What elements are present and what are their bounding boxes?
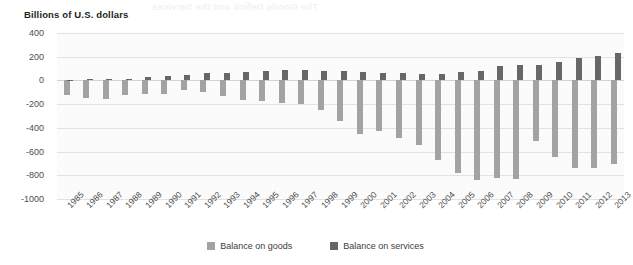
y-tick-label: -200 bbox=[0, 99, 44, 109]
bar-services-2002 bbox=[400, 73, 406, 80]
bar-goods-1996 bbox=[279, 80, 285, 103]
bar-goods-1993 bbox=[220, 80, 226, 96]
bar-goods-2001 bbox=[376, 80, 382, 131]
bar-services-1989 bbox=[145, 77, 151, 81]
bar-goods-2012 bbox=[591, 80, 597, 168]
bar-services-1987 bbox=[106, 79, 112, 80]
bar-goods-2002 bbox=[396, 80, 402, 137]
bar-services-1990 bbox=[165, 76, 171, 81]
plot-area: 4002000-200-400-600-800-1000 19851986198… bbox=[57, 33, 624, 199]
bar-services-1998 bbox=[321, 71, 327, 81]
bar-goods-1985 bbox=[64, 80, 70, 94]
chart-legend: Balance on goodsBalance on services bbox=[0, 241, 631, 251]
gridline-400 bbox=[57, 33, 624, 34]
bar-services-2013 bbox=[615, 53, 621, 80]
bar-goods-1995 bbox=[259, 80, 265, 101]
y-tick-label: 200 bbox=[0, 52, 44, 62]
bar-services-1996 bbox=[282, 70, 288, 80]
bar-services-2001 bbox=[380, 73, 386, 80]
gridline--800 bbox=[57, 175, 624, 176]
bar-services-2009 bbox=[536, 65, 542, 80]
gridline-200 bbox=[57, 57, 624, 58]
bar-services-1995 bbox=[263, 71, 269, 80]
bar-services-1999 bbox=[341, 71, 347, 81]
bar-goods-1991 bbox=[181, 80, 187, 89]
chart-axis-title: Billions of U.S. dollars bbox=[24, 9, 128, 20]
bar-goods-2007 bbox=[494, 80, 500, 177]
bar-services-2011 bbox=[576, 58, 582, 80]
legend-item-services: Balance on services bbox=[330, 241, 424, 251]
bar-services-2004 bbox=[439, 74, 445, 81]
bar-goods-2005 bbox=[455, 80, 461, 173]
legend-swatch-services bbox=[330, 242, 338, 250]
gridline--400 bbox=[57, 128, 624, 129]
bar-services-1993 bbox=[224, 73, 230, 80]
y-tick-label: -600 bbox=[0, 147, 44, 157]
bar-goods-1999 bbox=[337, 80, 343, 121]
legend-label-goods: Balance on goods bbox=[220, 241, 292, 251]
bar-goods-1989 bbox=[142, 80, 148, 94]
bar-goods-1990 bbox=[161, 80, 167, 93]
bar-services-2010 bbox=[556, 62, 562, 80]
y-tick-label: -1000 bbox=[0, 194, 44, 204]
bar-goods-1986 bbox=[83, 80, 89, 97]
bar-services-2005 bbox=[458, 72, 464, 80]
bar-services-1988 bbox=[126, 79, 132, 81]
bar-services-1994 bbox=[243, 72, 249, 80]
bar-services-1992 bbox=[204, 73, 210, 80]
y-tick-label: 0 bbox=[0, 75, 44, 85]
bar-services-2006 bbox=[478, 71, 484, 81]
bar-services-1985 bbox=[67, 80, 73, 81]
bar-goods-2000 bbox=[357, 80, 363, 134]
bar-goods-2013 bbox=[611, 80, 617, 163]
bar-services-1991 bbox=[184, 75, 190, 81]
legend-label-services: Balance on services bbox=[343, 241, 424, 251]
bar-services-2000 bbox=[360, 72, 366, 80]
bar-goods-1994 bbox=[240, 80, 246, 100]
bar-goods-1987 bbox=[103, 80, 109, 99]
y-tick-label: -800 bbox=[0, 170, 44, 180]
bar-services-2008 bbox=[517, 65, 523, 81]
bar-goods-2004 bbox=[435, 80, 441, 159]
bar-goods-1988 bbox=[122, 80, 128, 95]
bar-goods-2011 bbox=[572, 80, 578, 168]
bar-goods-1992 bbox=[200, 80, 206, 92]
page-bleed-through-text: The Goods Deficit and the Services bbox=[152, 1, 318, 12]
bar-goods-2010 bbox=[552, 80, 558, 157]
bar-goods-1998 bbox=[318, 80, 324, 109]
legend-item-goods: Balance on goods bbox=[207, 241, 292, 251]
bar-goods-2003 bbox=[416, 80, 422, 145]
bar-services-2003 bbox=[419, 74, 425, 80]
legend-swatch-goods bbox=[207, 242, 215, 250]
bar-services-2007 bbox=[497, 66, 503, 80]
y-tick-label: 400 bbox=[0, 28, 44, 38]
bar-goods-2008 bbox=[513, 80, 519, 179]
gridline--600 bbox=[57, 152, 624, 153]
bar-goods-2006 bbox=[474, 80, 480, 179]
bar-goods-2009 bbox=[533, 80, 539, 140]
y-tick-label: -400 bbox=[0, 123, 44, 133]
bar-services-1986 bbox=[87, 79, 93, 80]
bar-services-1997 bbox=[302, 70, 308, 81]
bar-services-2012 bbox=[595, 56, 601, 80]
bar-goods-1997 bbox=[298, 80, 304, 103]
